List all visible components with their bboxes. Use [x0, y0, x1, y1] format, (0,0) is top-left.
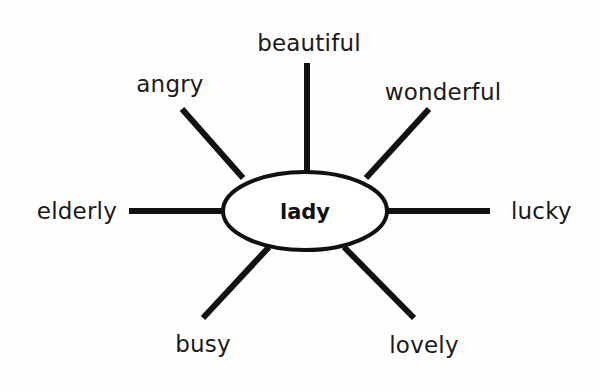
spoke-label-busy: busy	[175, 333, 231, 356]
spoke-label-lovely: lovely	[389, 334, 458, 357]
spoke-line-busy	[203, 247, 269, 318]
spoke-label-lucky: lucky	[511, 200, 572, 223]
spoke-label-angry: angry	[136, 73, 203, 96]
spoke-label-beautiful: beautiful	[257, 32, 361, 55]
center-node-label: lady	[280, 202, 330, 223]
word-web-diagram: beautifulangrywonderfulelderlyluckybusyl…	[0, 0, 600, 392]
spoke-line-angry	[182, 109, 243, 178]
spoke-line-wonderful	[366, 109, 429, 178]
spoke-label-wonderful: wonderful	[385, 81, 502, 104]
spoke-line-lovely	[344, 247, 414, 318]
diagram-canvas	[0, 0, 600, 392]
spoke-label-elderly: elderly	[37, 200, 117, 223]
